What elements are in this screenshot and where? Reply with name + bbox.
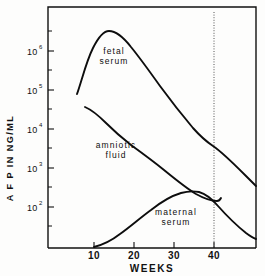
y-tick-label-1e5: 10 5: [27, 83, 43, 96]
x-tick-label-10: 10: [88, 250, 100, 261]
y-axis-major-ticks: [48, 51, 54, 207]
y-tick-mantissa: 10: [27, 125, 38, 135]
y-tick-label-1e3: 10 3: [27, 161, 43, 174]
series-label-line-2: serum: [161, 217, 190, 227]
y-tick-exponent: 6: [39, 44, 43, 50]
series-label-maternal-serum: maternal serum: [155, 207, 197, 227]
x-tick-label-40: 40: [208, 250, 220, 261]
y-tick-mantissa: 10: [27, 47, 38, 57]
y-tick-exponent: 5: [39, 83, 43, 89]
y-axis-title-text: A F P IN NG/ML: [5, 115, 15, 202]
y-tick-mantissa: 10: [27, 164, 38, 174]
series-label-line-1: amniotic: [96, 140, 136, 150]
afp-line-chart: 10 6 10 5 10 4 10 3 10 2 A F P IN NG/ML: [0, 0, 265, 276]
y-tick-label-1e6: 10 6: [27, 44, 43, 57]
series-label-line-1: maternal: [155, 207, 197, 217]
series-label-line-2: fluid: [105, 150, 126, 160]
x-axis-major-ticks: [94, 242, 214, 248]
x-axis-title: WEEKS: [130, 263, 175, 274]
x-tick-label-30: 30: [168, 250, 180, 261]
chart-figure: 10 6 10 5 10 4 10 3 10 2 A F P IN NG/ML: [0, 0, 265, 276]
y-tick-exponent: 2: [39, 200, 43, 206]
y-tick-label-1e4: 10 4: [27, 122, 43, 135]
x-tick-label-20: 20: [128, 250, 140, 261]
series-label-line-2: serum: [99, 56, 128, 66]
series-label-line-1: fetal: [103, 46, 125, 56]
series-label-fetal-serum: fetal serum: [99, 46, 128, 66]
y-tick-mantissa: 10: [27, 86, 38, 96]
y-axis-title: A F P IN NG/ML: [5, 115, 15, 202]
y-tick-exponent: 3: [39, 161, 43, 167]
y-tick-exponent: 4: [39, 122, 43, 128]
y-tick-mantissa: 10: [27, 203, 38, 213]
y-tick-label-1e2: 10 2: [27, 200, 43, 213]
series-label-amniotic-fluid: amniotic fluid: [96, 140, 136, 160]
plot-frame: [48, 7, 256, 248]
